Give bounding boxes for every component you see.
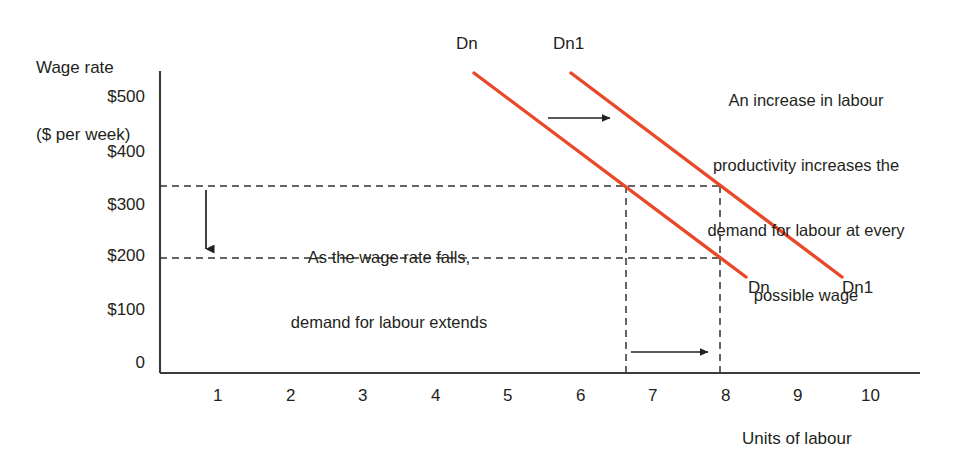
x-tick-label-1: 1 — [213, 385, 222, 407]
annotation-productivity-line-2: productivity increases the — [672, 155, 940, 177]
x-tick-label-6: 6 — [576, 385, 585, 407]
x-tick-label-10: 10 — [861, 385, 880, 407]
x-tick-label-9: 9 — [793, 385, 802, 407]
y-tick-label-100: $100 — [55, 299, 145, 321]
y-tick-label-0: 0 — [55, 352, 145, 374]
y-tick-label-200: $200 — [55, 245, 145, 267]
x-tick-label-7: 7 — [648, 385, 657, 407]
y-tick-label-500: $500 — [55, 86, 145, 108]
x-tick-label-4: 4 — [431, 385, 440, 407]
annotation-wage-falls-line-1: As the wage rate falls, — [234, 247, 544, 269]
annotation-wage-falls: As the wage rate falls, demand for labou… — [234, 203, 544, 377]
annotation-productivity-line-4: possible wage — [672, 285, 940, 307]
curve-label-dn-top: Dn — [456, 33, 478, 55]
y-axis-title-line-1: Wage rate — [36, 57, 130, 79]
x-tick-label-5: 5 — [503, 385, 512, 407]
x-axis-title: Units of labour — [742, 428, 852, 450]
labour-demand-chart: Wage rate ($ per week) Units of labour $… — [0, 0, 957, 472]
x-tick-label-3: 3 — [358, 385, 367, 407]
annotation-productivity: An increase in labour productivity incre… — [672, 46, 940, 351]
y-tick-label-300: $300 — [55, 194, 145, 216]
y-tick-label-400: $400 — [55, 141, 145, 163]
x-tick-label-2: 2 — [286, 385, 295, 407]
curve-label-dn1-top: Dn1 — [553, 33, 584, 55]
annotation-productivity-line-3: demand for labour at every — [672, 220, 940, 242]
x-tick-label-8: 8 — [721, 385, 730, 407]
annotation-productivity-line-1: An increase in labour — [672, 90, 940, 112]
annotation-wage-falls-line-2: demand for labour extends — [234, 312, 544, 334]
